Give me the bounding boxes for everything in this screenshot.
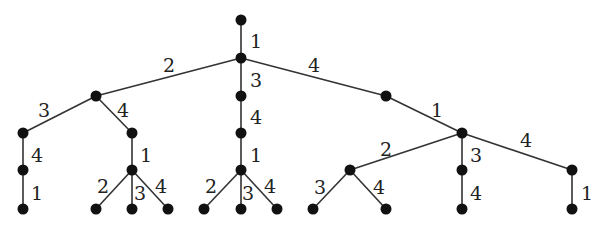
tree-node [18, 204, 29, 215]
edge-label: 4 [308, 54, 320, 76]
tree-node [127, 165, 138, 176]
edge-label: 2 [163, 54, 175, 76]
tree-node [236, 128, 247, 139]
tree-node [163, 204, 174, 215]
edge-label: 4 [520, 129, 532, 151]
tree-node [236, 204, 247, 215]
edge-label: 1 [140, 144, 152, 166]
tree-node [18, 165, 29, 176]
edge-label: 2 [97, 175, 109, 197]
edge-label: 1 [250, 30, 262, 52]
tree-edge [23, 96, 96, 133]
tree-node [345, 165, 356, 176]
edge-label: 4 [373, 176, 385, 198]
tree-node [457, 165, 468, 176]
tree-node [567, 165, 578, 176]
edge-label: 1 [31, 182, 43, 204]
edge-label: 2 [205, 175, 217, 197]
edge-label: 4 [31, 144, 43, 166]
edge-label: 3 [470, 144, 482, 166]
edge-label: 1 [431, 99, 443, 121]
tree-node [272, 204, 283, 215]
tree-node [236, 15, 247, 26]
edge-label: 3 [38, 99, 50, 121]
tree-diagram: 1234344141123412342343441 [0, 0, 599, 225]
tree-node [236, 91, 247, 102]
tree-edge [386, 96, 462, 133]
edge-labels: 1234344141123412342343441 [31, 30, 593, 204]
tree-node [457, 204, 468, 215]
tree-node [457, 128, 468, 139]
edge-label: 1 [581, 182, 593, 204]
edge-label: 1 [250, 144, 262, 166]
edge-label: 2 [380, 138, 392, 160]
tree-node [236, 53, 247, 64]
tree-node [91, 204, 102, 215]
edge-label: 3 [242, 182, 254, 204]
edge-label: 4 [117, 99, 129, 121]
tree-node [199, 204, 210, 215]
edge-label: 4 [264, 175, 276, 197]
edge-label: 4 [470, 182, 482, 204]
edge-label: 3 [314, 176, 326, 198]
tree-node [91, 91, 102, 102]
tree-node [308, 204, 319, 215]
tree-node [381, 204, 392, 215]
edge-label: 3 [250, 69, 262, 91]
tree-node [18, 128, 29, 139]
tree-node [236, 165, 247, 176]
tree-node [381, 91, 392, 102]
edge-label: 3 [134, 182, 146, 204]
edge-label: 4 [155, 175, 167, 197]
tree-node [127, 128, 138, 139]
tree-node [127, 204, 138, 215]
tree-edge [350, 133, 462, 170]
tree-node [567, 204, 578, 215]
edge-label: 4 [250, 106, 262, 128]
